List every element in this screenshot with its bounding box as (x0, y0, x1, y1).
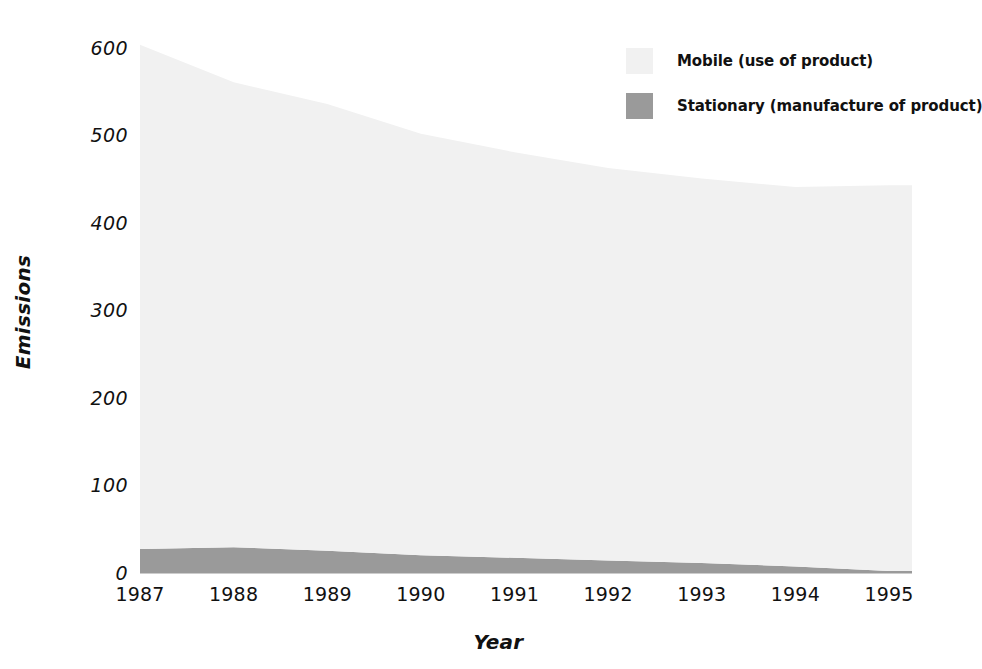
x-tick-label-1988: 1988 (189, 585, 279, 604)
x-tick-label-1987: 1987 (95, 585, 185, 604)
legend-label-stationary: Stationary (manufacture of product) (677, 97, 982, 115)
legend-swatch-stationary (626, 93, 653, 119)
y-tick-label-500: 500 (56, 126, 128, 145)
legend-item-stationary[interactable]: Stationary (manufacture of product) (626, 93, 946, 119)
y-tick-label-200: 200 (56, 389, 128, 408)
x-tick-label-1995: 1995 (844, 585, 934, 604)
y-tick-label-300: 300 (56, 301, 128, 320)
y-tick-label-100: 100 (56, 476, 128, 495)
y-tick-label-0: 0 (56, 564, 128, 583)
chart-legend: Mobile (use of product)Stationary (manuf… (626, 48, 946, 138)
y-tick-label-600: 600 (56, 39, 128, 58)
x-axis-title-text: Year (473, 630, 523, 654)
x-axis-title: Year (0, 630, 957, 654)
legend-label-mobile: Mobile (use of product) (677, 52, 873, 70)
x-tick-label-1994: 1994 (750, 585, 840, 604)
x-tick-label-1990: 1990 (376, 585, 466, 604)
x-tick-label-1993: 1993 (657, 585, 747, 604)
legend-swatch-mobile (626, 48, 653, 74)
x-tick-label-1991: 1991 (470, 585, 560, 604)
legend-item-mobile[interactable]: Mobile (use of product) (626, 48, 946, 74)
y-tick-label-400: 400 (56, 214, 128, 233)
y-axis-title: Emissions (11, 242, 35, 382)
x-tick-label-1989: 1989 (282, 585, 372, 604)
x-tick-label-1992: 1992 (563, 585, 653, 604)
